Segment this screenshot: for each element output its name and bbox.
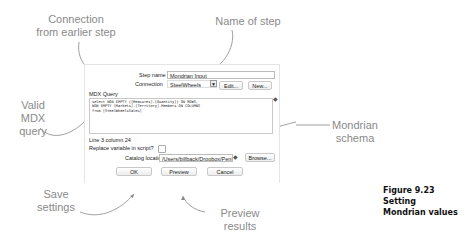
mdx-line: from [SteelWheelsSales]	[92, 109, 270, 113]
figure-title-line1: Setting	[383, 197, 416, 206]
annotation-valid-mdx: Valid MDX query	[8, 99, 58, 138]
chevron-down-icon[interactable]: ▼	[210, 80, 217, 87]
preview-button[interactable]: Preview	[161, 167, 197, 176]
edit-connection-button[interactable]: Edit...	[219, 81, 243, 90]
variable-diamond-icon[interactable]: ◆	[233, 153, 238, 160]
connection-label: Connection	[135, 81, 163, 87]
figure-number: Figure 9.23	[383, 186, 435, 195]
ok-button[interactable]: OK	[116, 167, 152, 176]
mdx-query-editor[interactable]: select NON EMPTY {[Measures].[Quantity]}…	[89, 98, 273, 134]
annotation-mondrian-schema: Mondrian schema	[330, 119, 380, 145]
step-name-input[interactable]: Mondrian Input	[167, 71, 275, 79]
mdx-query-label: MDX Query	[89, 91, 118, 97]
annotation-save-settings: Save settings	[26, 188, 86, 214]
variable-diamond-icon[interactable]: ◆	[273, 95, 278, 102]
cursor-position: Line 3 column 24	[89, 137, 131, 143]
new-connection-button[interactable]: New...	[248, 81, 272, 90]
browse-button[interactable]: Browse...	[245, 153, 275, 162]
replace-variable-label: Replace variable in script?	[89, 145, 154, 151]
figure-title-line2: Mondrian values	[383, 208, 458, 217]
cancel-button[interactable]: Cancel	[207, 167, 243, 176]
catalog-location-input[interactable]: /Users/billback/Dropbox/Pent	[159, 154, 233, 162]
mondrian-input-dialog: Step name Mondrian Input Connection Stee…	[84, 64, 280, 183]
step-name-label: Step name	[139, 72, 166, 78]
replace-variable-checkbox[interactable]	[158, 145, 166, 153]
annotation-preview-results: Preview results	[205, 207, 275, 233]
figure-caption: Figure 9.23 Setting Mondrian values	[383, 185, 470, 218]
annotation-name-of-step: Name of step	[208, 15, 288, 28]
annotation-connection: Connection from earlier step	[36, 13, 116, 39]
